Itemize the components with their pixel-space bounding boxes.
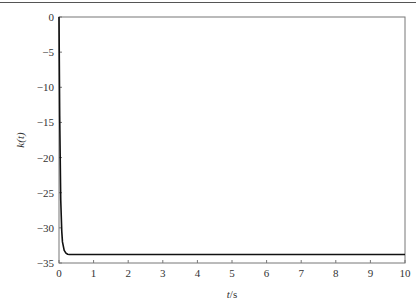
x-tick-label: 3 xyxy=(160,267,166,279)
y-tick-label: −35 xyxy=(37,257,55,269)
x-axis-label: t/s xyxy=(227,288,237,300)
y-tick-label: −30 xyxy=(37,222,55,234)
y-tick-label: −20 xyxy=(37,152,55,164)
x-tick-label: 0 xyxy=(56,267,62,279)
x-tick-label: 2 xyxy=(125,267,131,279)
y-tick-label: −10 xyxy=(37,81,55,93)
x-tick-label: 6 xyxy=(264,267,270,279)
y-tick-label: −25 xyxy=(37,187,55,199)
x-tick-label: 8 xyxy=(333,267,339,279)
x-tick-label: 9 xyxy=(368,267,374,279)
plot-border xyxy=(59,17,405,263)
plot-frame xyxy=(59,17,405,263)
y-tick-label: −15 xyxy=(37,116,55,128)
x-tick-label: 10 xyxy=(400,267,412,279)
axis-ticks: 0123456789100−5−10−15−20−25−30−35 xyxy=(37,11,411,279)
data-series xyxy=(59,17,405,255)
x-tick-label: 5 xyxy=(229,267,235,279)
series-line xyxy=(59,17,405,255)
x-tick-label: 4 xyxy=(195,267,201,279)
y-tick-label: −5 xyxy=(42,46,54,58)
y-axis-label: k(t) xyxy=(14,132,27,148)
x-tick-label: 1 xyxy=(91,267,97,279)
y-tick-label: 0 xyxy=(49,11,55,23)
chart: 0123456789100−5−10−15−20−25−30−35 t/s k(… xyxy=(0,0,416,306)
x-tick-label: 7 xyxy=(298,267,304,279)
